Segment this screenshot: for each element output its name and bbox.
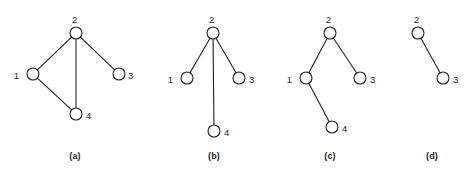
edge-group — [421, 38, 440, 73]
graph-edge-2-1 — [190, 38, 210, 73]
graph-node-4 — [326, 121, 338, 133]
graph-node-3 — [354, 72, 366, 84]
panel-caption-c: (c) — [324, 152, 336, 161]
graph-drawing-d — [370, 0, 476, 170]
node-label-2: 2 — [414, 15, 419, 25]
panel-caption-a: (a) — [69, 152, 81, 161]
graph-node-3 — [113, 68, 125, 80]
graph-node-4 — [208, 125, 220, 137]
graph-panel-a: 1234 — [0, 0, 130, 170]
graph-edge-2-3 — [421, 38, 440, 73]
node-label-1: 1 — [14, 71, 19, 81]
graph-panel-c: 1234 — [250, 0, 370, 170]
graph-node-2 — [412, 27, 424, 39]
graph-edge-1-4 — [37, 78, 71, 110]
graph-edge-2-3 — [333, 38, 356, 73]
graph-node-4 — [70, 108, 82, 120]
panel-caption-b: (b) — [208, 152, 220, 161]
node-label-2: 2 — [209, 15, 214, 25]
graph-edge-2-4 — [213, 39, 214, 125]
graph-edge-1-4 — [309, 83, 329, 121]
node-label-4: 4 — [224, 128, 229, 138]
node-label-2: 2 — [72, 15, 77, 25]
graph-node-1 — [300, 72, 312, 84]
graph-node-1 — [181, 72, 193, 84]
node-label-1: 1 — [287, 75, 292, 85]
node-label-1: 1 — [168, 75, 173, 85]
edge-group — [37, 37, 114, 110]
node-group — [300, 27, 366, 133]
graph-figure: 1234(a)1234(b)1234(c)23(d) — [0, 0, 476, 170]
edge-group — [190, 38, 236, 125]
node-label-4: 4 — [342, 124, 347, 134]
graph-drawing-c — [250, 0, 370, 170]
graph-drawing-b — [130, 0, 250, 170]
graph-panel-d: 23 — [370, 0, 476, 170]
graph-node-3 — [233, 72, 245, 84]
graph-edge-2-3 — [80, 37, 114, 70]
graph-node-2 — [70, 27, 82, 39]
node-label-2: 2 — [326, 15, 331, 25]
node-label-4: 4 — [86, 111, 91, 121]
graph-node-2 — [324, 27, 336, 39]
graph-node-1 — [27, 68, 39, 80]
graph-panel-b: 1234 — [130, 0, 250, 170]
graph-node-3 — [437, 72, 449, 84]
graph-edge-2-3 — [216, 38, 236, 73]
panel-caption-d: (d) — [426, 152, 438, 161]
node-label-3: 3 — [453, 75, 458, 85]
graph-edge-2-1 — [37, 37, 71, 70]
graph-node-2 — [207, 27, 219, 39]
graph-drawing-a — [0, 0, 130, 170]
edge-group — [309, 38, 357, 122]
graph-edge-2-1 — [309, 38, 327, 72]
